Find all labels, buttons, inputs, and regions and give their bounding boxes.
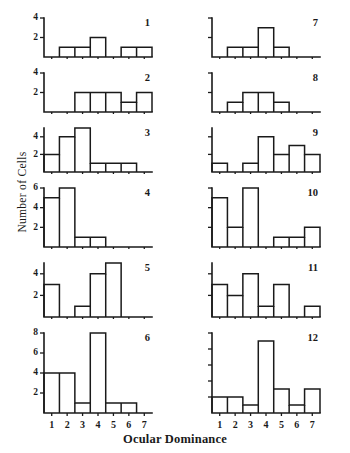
svg-text:4: 4: [33, 12, 38, 22]
x-tick-label: 3: [80, 419, 85, 430]
x-tick-label: 5: [279, 419, 284, 430]
x-tick-label: 3: [248, 419, 253, 430]
svg-text:6: 6: [33, 347, 38, 357]
histogram-panel-1: 241: [28, 12, 154, 59]
svg-text:2: 2: [33, 32, 38, 42]
panel-number-2: 2: [145, 72, 150, 83]
panel-number-5: 5: [145, 262, 150, 273]
svg-text:8: 8: [33, 327, 38, 337]
panel-number-1: 1: [145, 17, 150, 28]
histogram-panel-12: 121234567: [196, 327, 322, 435]
panel-number-4: 4: [145, 187, 151, 198]
x-tick-label: 7: [310, 419, 315, 430]
x-tick-label: 1: [49, 419, 54, 430]
x-tick-label: 6: [294, 419, 299, 430]
histogram-panel-4: 2464: [28, 182, 154, 249]
histogram-panel-6: 246861234567: [28, 327, 154, 435]
x-tick-label: 7: [142, 419, 147, 430]
x-tick-label: 1: [217, 419, 222, 430]
histogram-panel-11: 11: [196, 257, 322, 319]
x-tick-label: 2: [65, 419, 70, 430]
svg-text:2: 2: [33, 290, 38, 300]
svg-text:4: 4: [33, 268, 38, 278]
ocular-dominance-figure: Number of Cells Ocular Dominance 2412422…: [0, 0, 350, 453]
panel-number-3: 3: [145, 127, 150, 138]
svg-text:2: 2: [33, 87, 38, 97]
svg-text:4: 4: [33, 131, 38, 141]
histogram-panel-5: 245: [28, 257, 154, 319]
panel-number-12: 12: [308, 332, 319, 343]
x-tick-label: 5: [111, 419, 116, 430]
histogram-panel-7: 7: [196, 12, 322, 59]
svg-text:2: 2: [33, 149, 38, 159]
x-tick-label: 2: [233, 419, 238, 430]
histogram-panel-10: 10: [196, 182, 322, 249]
svg-text:4: 4: [33, 367, 38, 377]
panel-number-6: 6: [145, 332, 150, 343]
histogram-panel-3: 243: [28, 122, 154, 174]
svg-text:4: 4: [33, 202, 38, 212]
x-tick-label: 4: [264, 419, 269, 430]
x-tick-label: 6: [126, 419, 131, 430]
panel-number-9: 9: [313, 127, 318, 138]
svg-text:6: 6: [33, 182, 38, 192]
histogram-panel-9: 9: [196, 122, 322, 174]
panel-number-10: 10: [308, 187, 319, 198]
y-axis-label: Number of Cells: [16, 122, 28, 262]
x-tick-label: 4: [96, 419, 101, 430]
svg-text:4: 4: [33, 67, 38, 77]
panel-number-8: 8: [313, 72, 318, 83]
panel-number-7: 7: [313, 17, 318, 28]
svg-text:2: 2: [33, 222, 38, 232]
histogram-panel-8: 8: [196, 67, 322, 114]
panel-number-11: 11: [308, 262, 318, 273]
svg-text:2: 2: [33, 387, 38, 397]
histogram-panel-2: 242: [28, 67, 154, 114]
